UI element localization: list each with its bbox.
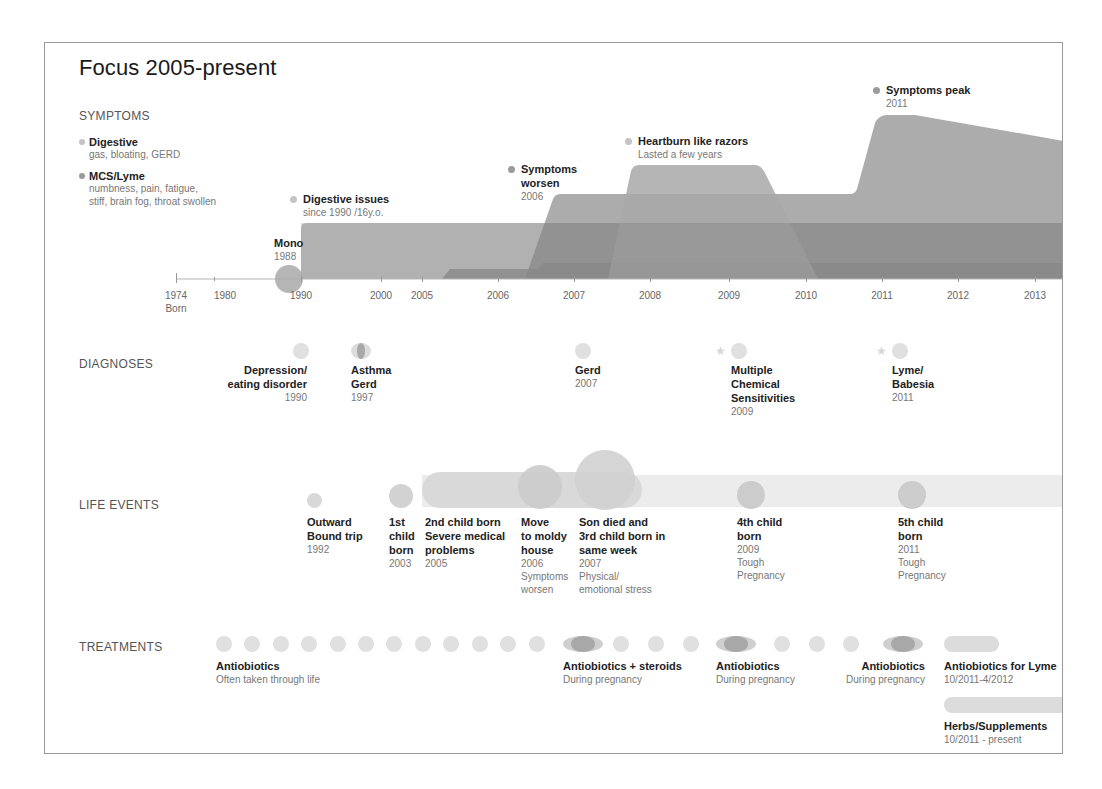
axis-label-2007: 2007 — [563, 290, 585, 301]
event-year: 2003 — [389, 557, 415, 570]
axis-tick-2006 — [498, 276, 499, 282]
diagnosis-line: Depression/ — [205, 363, 307, 377]
diagnosis-marker-2009 — [731, 343, 747, 359]
event-line: born — [737, 529, 785, 543]
axis-tick-2005 — [422, 276, 423, 282]
annotation-title: Heartburn like razors — [638, 134, 748, 148]
axis-tick-1974 — [176, 273, 177, 283]
event-line: child — [389, 529, 415, 543]
event-line: Move — [521, 515, 568, 529]
treatment-title: Antiobiotics — [716, 659, 795, 673]
axis-tick-1990 — [301, 276, 302, 282]
treatment-cluster-2011-dark — [891, 636, 915, 652]
treatment-dot — [774, 636, 790, 652]
treatment-sub: 10/2011-4/2012 — [944, 673, 1063, 686]
annotation-sub: 2006 — [521, 190, 543, 203]
diagnosis-year: 1997 — [351, 391, 391, 404]
life-event-1st-child: 1st child born 2003 — [389, 515, 415, 570]
axis-label-2009: 2009 — [718, 290, 740, 301]
axis-tick-2011 — [882, 276, 883, 282]
diagnosis-year: 2011 — [892, 391, 934, 404]
annotation-title: Symptoms — [521, 162, 577, 176]
event-line: same week — [579, 543, 665, 557]
axis-label-2008: 2008 — [639, 290, 661, 301]
axis-label-2005: 2005 — [411, 290, 433, 301]
event-line: Son died and — [579, 515, 665, 529]
event-note: Pregnancy — [898, 569, 946, 582]
annotation-dot — [625, 138, 632, 145]
diagnosis-year: 1990 — [205, 391, 307, 404]
event-note: Pregnancy — [737, 569, 785, 582]
event-line: problems — [425, 543, 505, 557]
treatment-cluster-2009-dark — [724, 636, 748, 652]
diagnosis-depression: Depression/ eating disorder 1990 — [205, 363, 307, 404]
treatment-sub: During pregnancy — [716, 673, 795, 686]
life-event-son-died: Son died and 3rd child born in same week… — [579, 515, 665, 596]
event-note: Tough — [898, 556, 946, 569]
life-event-marker-2007 — [575, 450, 635, 510]
treatment-dot — [500, 636, 516, 652]
treatment-herbs-bar — [944, 697, 1063, 713]
antibiotic-dot-row — [216, 636, 1056, 656]
diagnosis-asthma-gerd: Asthma Gerd 1997 — [351, 363, 391, 404]
annotation-sub: Lasted a few years — [638, 148, 722, 161]
event-note: emotional stress — [579, 583, 665, 596]
treatment-antibiotics-2009: Antiobiotics During pregnancy — [716, 659, 795, 686]
treatment-antibiotics-life: Antiobiotics Often taken through life — [216, 659, 320, 686]
treatment-dot — [472, 636, 488, 652]
treatment-dot — [809, 636, 825, 652]
event-line: Outward — [307, 515, 363, 529]
axis-label-born: Born — [165, 303, 186, 314]
diagnosis-line: Babesia — [892, 377, 934, 391]
chart-frame: Focus 2005-present SYMPTOMS Digestive ga… — [44, 42, 1063, 754]
treatment-dot — [529, 636, 545, 652]
axis-tick-2008 — [650, 276, 651, 282]
diagnosis-year: 2007 — [575, 377, 601, 390]
diagnosis-lyme: Lyme/ Babesia 2011 — [892, 363, 934, 404]
axis-label-2006: 2006 — [487, 290, 509, 301]
event-note: Physical/ — [579, 570, 665, 583]
treatment-lyme-antibiotic-bar — [944, 636, 999, 652]
treatment-dot — [443, 636, 459, 652]
annotation-sub: 2011 — [886, 97, 908, 110]
treatment-dot — [613, 636, 629, 652]
treatment-title: Antiobiotics + steroids — [563, 659, 682, 673]
diagnosis-gerd: Gerd 2007 — [575, 363, 601, 390]
annotation-sub: 1988 — [274, 250, 303, 263]
life-event-moldy-house: Move to moldy house 2006 Symptoms worsen — [521, 515, 568, 596]
event-line: Severe medical — [425, 529, 505, 543]
life-event-2nd-child: 2nd child born Severe medical problems 2… — [425, 515, 505, 570]
life-event-marker-2011 — [898, 481, 926, 509]
axis-label-1980: 1980 — [214, 290, 236, 301]
treatment-dot — [683, 636, 699, 652]
treatment-title: Herbs/Supplements — [944, 719, 1047, 733]
diagnosis-line: Multiple — [731, 363, 795, 377]
event-year: 2007 — [579, 557, 665, 570]
treatment-cluster-2007-dark — [571, 636, 595, 652]
treatment-sub: 10/2011 - present — [944, 733, 1047, 746]
event-note: Symptoms — [521, 570, 568, 583]
treatment-dot — [648, 636, 664, 652]
treatment-sub: During pregnancy — [563, 673, 682, 686]
diagnosis-line: eating disorder — [205, 377, 307, 391]
life-event-marker-1992 — [307, 493, 322, 508]
treatment-herbs: Herbs/Supplements 10/2011 - present — [944, 719, 1047, 746]
treatments-section-label: TREATMENTS — [79, 640, 162, 654]
annotation-title: Symptoms peak — [886, 83, 970, 97]
life-event-outward-bound: Outward Bound trip 1992 — [307, 515, 363, 556]
axis-label-1990: 1990 — [290, 290, 312, 301]
life-event-marker-2009 — [737, 481, 765, 509]
annotation-title: Digestive issues — [303, 192, 389, 206]
overlap-band — [301, 223, 1063, 279]
treatment-dot — [244, 636, 260, 652]
life-event-marker-2003 — [389, 484, 413, 508]
life-event-marker-2006 — [518, 465, 562, 509]
treatment-title: Antiobiotics — [825, 659, 925, 673]
diagnosis-line: Sensitivities — [731, 391, 795, 405]
diagnosis-line: Gerd — [351, 377, 391, 391]
diagnosis-mcs: Multiple Chemical Sensitivities 2009 — [731, 363, 795, 418]
diagnosis-year: 2009 — [731, 405, 795, 418]
event-line: 4th child — [737, 515, 785, 529]
diagnosis-marker-1990 — [293, 343, 309, 359]
treatment-dot — [843, 636, 859, 652]
